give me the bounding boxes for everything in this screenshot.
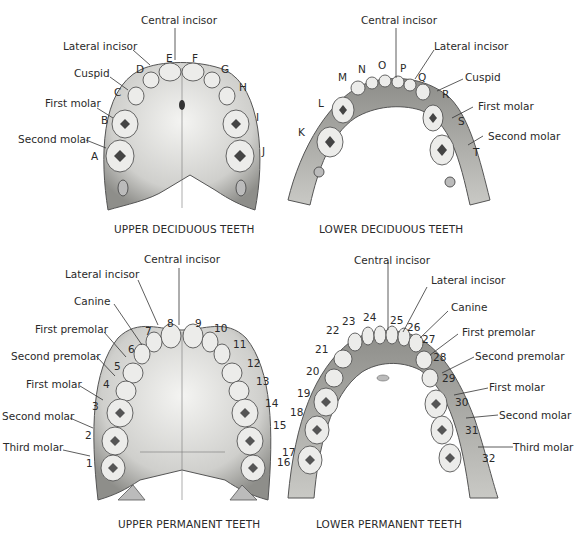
tooth-letter-t: T xyxy=(473,146,479,158)
label-first-molar: First molar xyxy=(478,100,534,112)
tooth-letter-c: C xyxy=(114,86,121,98)
label-central-incisor: Central incisor xyxy=(144,253,220,265)
caption-upper-permanent: UPPER PERMANENT TEETH xyxy=(118,518,260,530)
tooth-letter-d: D xyxy=(136,63,144,75)
tooth-number-10: 10 xyxy=(214,322,227,334)
label-lateral-incisor: Lateral incisor xyxy=(431,274,505,286)
tooth-number-17: 17 xyxy=(282,446,295,458)
tooth-number-22: 22 xyxy=(326,324,339,336)
label-first-molar: First molar xyxy=(489,381,545,393)
tooth-number-31: 31 xyxy=(465,424,478,436)
tooth-letter-p: P xyxy=(400,62,406,74)
label-canine: Canine xyxy=(74,295,110,307)
label-lateral-incisor: Lateral incisor xyxy=(65,268,139,280)
tooth-number-28: 28 xyxy=(433,351,446,363)
tooth-letter-j: J xyxy=(262,145,265,157)
tooth-number-30: 30 xyxy=(455,396,468,408)
tooth-letter-g: G xyxy=(221,63,229,75)
tooth-number-29: 29 xyxy=(442,372,455,384)
tooth-number-7: 7 xyxy=(145,325,152,337)
label-lateral-incisor: Lateral incisor xyxy=(434,40,508,52)
tooth-letter-h: H xyxy=(239,81,247,93)
tooth-number-24: 24 xyxy=(363,311,376,323)
label-canine: Canine xyxy=(451,301,487,313)
lower-deciduous-arch xyxy=(288,75,490,205)
tooth-letter-a: A xyxy=(91,150,98,162)
label-central-incisor: Central incisor xyxy=(361,14,437,26)
tooth-number-13: 13 xyxy=(256,375,269,387)
label-first-premolar: First premolar xyxy=(462,326,535,338)
tooth-number-12: 12 xyxy=(247,357,260,369)
label-central-incisor: Central incisor xyxy=(141,14,217,26)
tooth-number-3: 3 xyxy=(92,400,99,412)
tooth-number-20: 20 xyxy=(306,365,319,377)
tooth-number-4: 4 xyxy=(103,378,110,390)
label-second-molar: Second molar xyxy=(488,130,560,142)
tooth-number-25: 25 xyxy=(390,314,403,326)
upper-deciduous-arch xyxy=(104,63,260,211)
label-second-premolar: Second premolar xyxy=(475,350,565,362)
tooth-number-32: 32 xyxy=(482,452,495,464)
tooth-letter-r: R xyxy=(442,88,449,100)
tooth-letter-q: Q xyxy=(418,71,426,83)
label-second-molar: Second molar xyxy=(499,409,571,421)
tooth-number-8: 8 xyxy=(167,317,174,329)
label-third-molar: Third molar xyxy=(3,441,63,453)
tooth-letter-m: M xyxy=(338,71,347,83)
label-central-incisor: Central incisor xyxy=(354,254,430,266)
tooth-letter-e: E xyxy=(166,52,173,64)
label-first-molar: First molar xyxy=(26,378,82,390)
label-second-premolar: Second premolar xyxy=(11,350,101,362)
tooth-letter-s: S xyxy=(458,115,465,127)
tooth-letter-b: B xyxy=(101,114,108,126)
tooth-letter-f: F xyxy=(192,52,198,64)
tooth-number-6: 6 xyxy=(128,343,135,355)
tooth-number-15: 15 xyxy=(273,419,286,431)
tooth-number-21: 21 xyxy=(315,343,328,355)
label-third-molar: Third molar xyxy=(513,441,573,453)
tooth-number-1: 1 xyxy=(86,457,93,469)
label-lateral-incisor: Lateral incisor xyxy=(63,40,137,52)
tooth-number-9: 9 xyxy=(195,317,202,329)
caption-upper-deciduous: UPPER DECIDUOUS TEETH xyxy=(114,223,255,235)
label-second-molar: Second molar xyxy=(2,410,74,422)
label-cuspid: Cuspid xyxy=(465,71,501,83)
tooth-number-14: 14 xyxy=(265,397,278,409)
label-second-molar: Second molar xyxy=(18,133,90,145)
label-cuspid: Cuspid xyxy=(74,67,110,79)
tooth-letter-k: K xyxy=(298,126,305,138)
tooth-number-11: 11 xyxy=(233,338,246,350)
tooth-letter-l: L xyxy=(318,97,324,109)
tooth-letter-n: N xyxy=(358,63,366,75)
tooth-number-23: 23 xyxy=(342,315,355,327)
tooth-letter-o: O xyxy=(378,59,386,71)
tooth-number-27: 27 xyxy=(422,333,435,345)
tooth-number-2: 2 xyxy=(85,429,92,441)
tooth-number-5: 5 xyxy=(114,360,121,372)
label-first-molar: First molar xyxy=(45,97,101,109)
tooth-number-18: 18 xyxy=(290,406,303,418)
caption-lower-permanent: LOWER PERMANENT TEETH xyxy=(316,518,462,530)
caption-lower-deciduous: LOWER DECIDUOUS TEETH xyxy=(319,223,463,235)
tooth-number-26: 26 xyxy=(407,321,420,333)
tooth-letter-i: I xyxy=(256,111,259,123)
label-first-premolar: First premolar xyxy=(35,323,108,335)
tooth-number-19: 19 xyxy=(297,387,310,399)
